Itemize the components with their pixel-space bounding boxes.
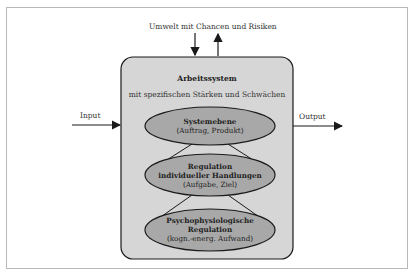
level-1-title: Systemebene <box>184 117 237 126</box>
level-3-title: Psychophysiologische <box>166 216 254 225</box>
system-title: Arbeitssystem <box>121 74 293 83</box>
level-3-text: Psychophysiologische Regulation (kogn.-e… <box>145 216 275 243</box>
level-1-text: Systemebene (Auftrag, Produkt) <box>145 117 275 135</box>
level-2-text: Regulation individueller Handlungen (Auf… <box>145 162 275 189</box>
level-3-detail: (kogn.-energ. Aufwand) <box>145 234 275 243</box>
output-label: Output <box>299 112 326 121</box>
system-subtitle: mit spezifischen Stärken und Schwächen <box>121 90 293 99</box>
level-2-title2: individueller Handlungen <box>158 171 261 180</box>
level-2-detail: (Aufgabe, Ziel) <box>145 180 275 189</box>
level-2-title: Regulation <box>188 162 232 171</box>
level-3-title2: Regulation <box>188 225 232 234</box>
environment-label: Umwelt mit Chancen und Risiken <box>149 22 277 31</box>
input-label: Input <box>80 111 100 120</box>
level-1-detail: (Auftrag, Produkt) <box>145 126 275 135</box>
